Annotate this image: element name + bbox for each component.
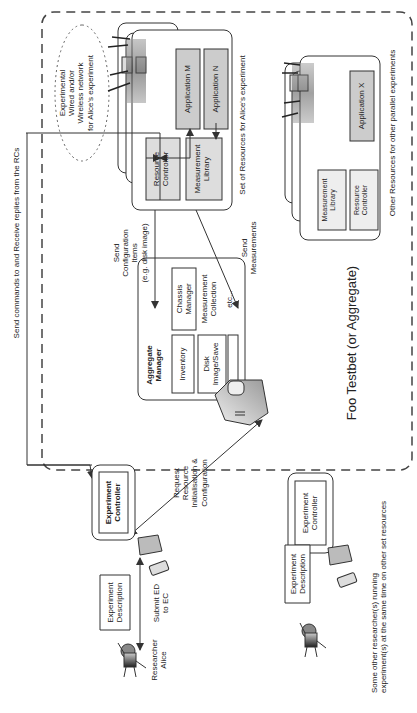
send-measurements-label: Send Measurements	[240, 208, 258, 288]
inventory-label: Inventory	[178, 335, 187, 393]
other-computer-icon	[328, 545, 357, 588]
send-config-label: Send Configuration Items (e.g. disk imag…	[112, 213, 149, 293]
send-commands-label: Send commands to and Receive replies fro…	[12, 123, 21, 363]
submit-ed-label: Submit ED to EC	[152, 573, 170, 633]
other-researchers-caption: Some other researcher(s) running experim…	[370, 453, 388, 693]
application-x-label: Application X	[357, 71, 366, 141]
application-n-label: Application N	[211, 49, 220, 129]
other-rc-label: Resource Controller	[353, 170, 369, 230]
alice-figure-icon	[118, 643, 146, 677]
alice-ed-label: Experiment Description	[106, 575, 124, 630]
request-resource-label: Request Resource Initialisation & Config…	[172, 443, 209, 523]
diagram-stage: Foo Testbet (or Aggregate) Experimental …	[0, 0, 417, 713]
alice-resources-caption: Set of Resources for Alice's experiment	[238, 25, 247, 225]
other-ed-label: Experiment Description	[289, 545, 307, 603]
aggregate-manager-label: Aggregate Manager	[145, 335, 163, 395]
researcher-alice-label: Researcher Alice	[150, 635, 168, 685]
network-label: Experimental Wired and/or Wireless netwo…	[58, 33, 95, 153]
application-m-label: Application M	[183, 49, 192, 129]
other-figure-icon	[300, 623, 326, 657]
alice-ml-label: Measurement Library	[193, 138, 211, 200]
other-ec-label: Experiment Controller	[301, 481, 319, 545]
other-resources-caption: Other Resources for other parallel exper…	[388, 13, 397, 253]
testbed-title: Foo Testbet (or Aggregate)	[345, 233, 360, 453]
alice-ec-label: Experiment Controller	[104, 472, 122, 533]
alice-rc-label: Resource Controller	[152, 138, 170, 200]
etc-label: etc...	[225, 268, 234, 330]
disk-label: Disk Image/Save	[202, 335, 220, 393]
alice-computer-icon	[138, 535, 169, 576]
other-ml-label: Measurement Library	[321, 170, 337, 230]
measurement-collection-label: Measurement Collection	[200, 268, 218, 330]
server-icon	[215, 380, 268, 425]
chassis-label: Chassis Manager	[175, 268, 193, 330]
